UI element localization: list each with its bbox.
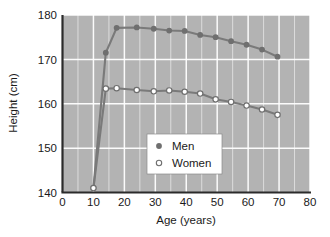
x-axis-title: Age (years): [156, 214, 216, 226]
legend-marker-women: [156, 160, 161, 165]
legend-marker-men: [156, 143, 162, 149]
x-tick-label: 40: [180, 196, 193, 208]
data-point: [103, 86, 108, 91]
data-point: [103, 50, 109, 56]
y-tick-label: 160: [38, 98, 57, 110]
data-point: [114, 86, 119, 91]
x-axis-tick-labels: 01020304050607080: [59, 196, 316, 208]
data-point: [91, 185, 96, 190]
y-tick-label: 180: [38, 9, 57, 21]
data-point: [275, 112, 280, 117]
data-point: [114, 25, 120, 31]
data-point: [197, 91, 202, 96]
y-axis-title: Height (cm): [7, 73, 19, 133]
x-tick-label: 10: [87, 196, 100, 208]
x-tick-label: 70: [273, 196, 286, 208]
x-tick-label: 50: [211, 196, 224, 208]
x-tick-label: 20: [118, 196, 131, 208]
legend-label-women: Women: [172, 157, 211, 169]
y-axis-tick-labels: 140150160170180: [38, 9, 57, 199]
data-point: [134, 25, 140, 31]
data-point: [244, 103, 249, 108]
data-point: [182, 28, 188, 34]
data-point: [259, 47, 265, 53]
data-point: [182, 89, 187, 94]
data-point: [275, 54, 281, 60]
data-point: [134, 87, 139, 92]
y-tick-label: 140: [38, 187, 57, 199]
x-tick-label: 60: [242, 196, 255, 208]
data-point: [213, 97, 218, 102]
data-point: [197, 32, 203, 38]
data-point: [259, 107, 264, 112]
data-point: [244, 42, 250, 48]
x-tick-label: 30: [149, 196, 162, 208]
legend-label-men: Men: [172, 140, 194, 152]
x-tick-label: 0: [59, 196, 65, 208]
x-tick-label: 80: [304, 196, 317, 208]
data-point: [167, 88, 172, 93]
data-point: [213, 34, 219, 40]
data-point: [166, 28, 172, 34]
y-tick-label: 150: [38, 142, 57, 154]
data-point: [228, 38, 234, 44]
chart-canvas: 01020304050607080 140150160170180 Age (y…: [0, 0, 330, 237]
chart-legend: Men Women: [147, 134, 222, 174]
y-tick-label: 170: [38, 54, 57, 66]
height-vs-age-chart: 01020304050607080 140150160170180 Age (y…: [0, 0, 330, 237]
data-point: [151, 26, 157, 32]
data-point: [228, 99, 233, 104]
data-point: [151, 89, 156, 94]
